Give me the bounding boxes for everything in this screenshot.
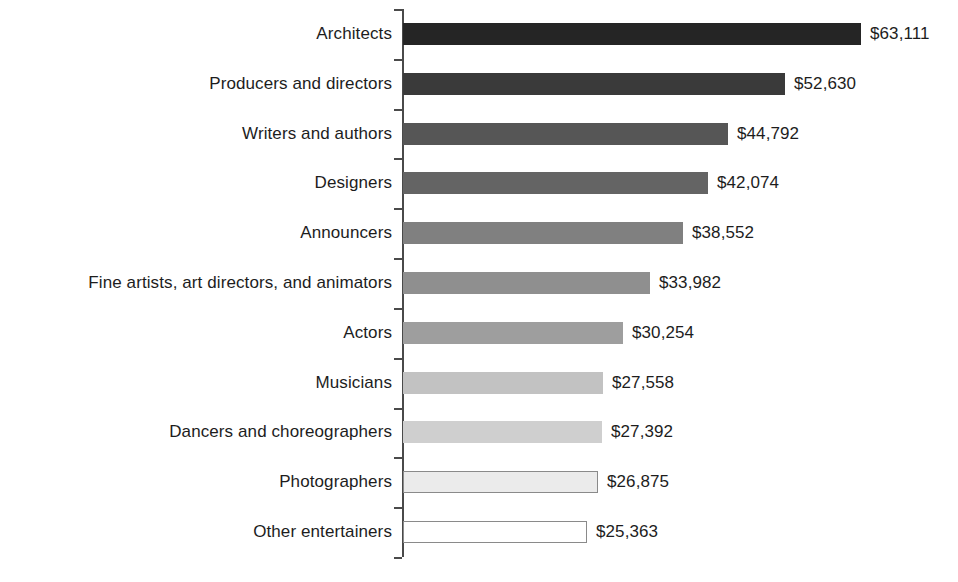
bar-row: Announcers$38,552 bbox=[0, 222, 958, 244]
y-axis-tick bbox=[394, 358, 402, 360]
bar-row: Producers and directors$52,630 bbox=[0, 73, 958, 95]
y-axis-tick bbox=[394, 9, 402, 11]
bar-row: Actors$30,254 bbox=[0, 322, 958, 344]
y-axis-tick bbox=[394, 308, 402, 310]
bar-row: Writers and authors$44,792 bbox=[0, 123, 958, 145]
y-axis-tick bbox=[394, 158, 402, 160]
bar bbox=[403, 471, 598, 493]
bar bbox=[403, 23, 861, 45]
bar bbox=[403, 172, 708, 194]
bar-row: Musicians$27,558 bbox=[0, 372, 958, 394]
y-axis-tick bbox=[394, 59, 402, 61]
bar-value-label: $27,392 bbox=[611, 422, 673, 442]
bar-value-label: $25,363 bbox=[596, 522, 658, 542]
y-axis-tick bbox=[394, 457, 402, 459]
bar bbox=[403, 322, 623, 344]
category-label: Musicians bbox=[316, 373, 392, 393]
bar-value-label: $26,875 bbox=[607, 472, 669, 492]
category-label: Other entertainers bbox=[253, 522, 392, 542]
y-axis-tick bbox=[394, 507, 402, 509]
bar-value-label: $63,111 bbox=[870, 24, 930, 44]
bar-row: Designers$42,074 bbox=[0, 172, 958, 194]
bar-row: Photographers$26,875 bbox=[0, 471, 958, 493]
bar-value-label: $27,558 bbox=[612, 373, 674, 393]
bar-value-label: $33,982 bbox=[659, 273, 721, 293]
bar bbox=[403, 73, 785, 95]
bar bbox=[403, 272, 650, 294]
bar-value-label: $52,630 bbox=[794, 74, 856, 94]
bar-value-label: $42,074 bbox=[717, 173, 779, 193]
bar-value-label: $30,254 bbox=[632, 323, 694, 343]
category-label: Producers and directors bbox=[209, 74, 392, 94]
bar bbox=[403, 123, 728, 145]
bar bbox=[403, 421, 602, 443]
category-label: Announcers bbox=[300, 223, 392, 243]
bar-value-label: $44,792 bbox=[737, 124, 799, 144]
y-axis-tick bbox=[394, 557, 402, 559]
bar-row: Other entertainers$25,363 bbox=[0, 521, 958, 543]
category-label: Dancers and choreographers bbox=[169, 422, 392, 442]
category-label: Fine artists, art directors, and animato… bbox=[88, 273, 392, 293]
category-label: Architects bbox=[316, 24, 392, 44]
bar-row: Architects$63,111 bbox=[0, 23, 958, 45]
bar bbox=[403, 521, 587, 543]
bar-value-label: $38,552 bbox=[692, 223, 754, 243]
bar-row: Dancers and choreographers$27,392 bbox=[0, 421, 958, 443]
bar bbox=[403, 372, 603, 394]
category-label: Writers and authors bbox=[242, 124, 392, 144]
category-label: Photographers bbox=[279, 472, 392, 492]
bar-chart: Architects$63,111Producers and directors… bbox=[0, 0, 958, 582]
y-axis-tick bbox=[394, 208, 402, 210]
bar-row: Fine artists, art directors, and animato… bbox=[0, 272, 958, 294]
category-label: Actors bbox=[343, 323, 392, 343]
category-label: Designers bbox=[315, 173, 392, 193]
y-axis-tick bbox=[394, 258, 402, 260]
bar bbox=[403, 222, 683, 244]
y-axis-tick bbox=[394, 109, 402, 111]
y-axis-tick bbox=[394, 408, 402, 410]
